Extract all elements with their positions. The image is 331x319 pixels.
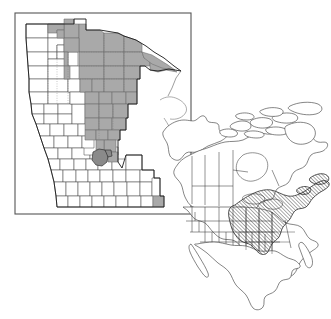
minnesota-inset-group — [26, 19, 187, 207]
lake-superior-shoreline — [168, 71, 181, 96]
map-figure — [0, 0, 331, 319]
north-america-map-group — [163, 102, 329, 310]
figure-canvas — [0, 0, 331, 319]
